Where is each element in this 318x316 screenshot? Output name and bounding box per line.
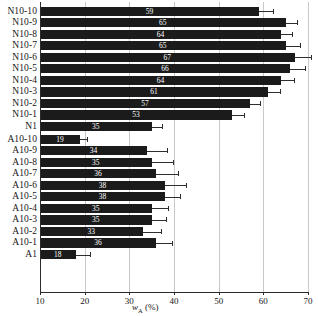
category-label-a10-6: A10-6 [0,181,37,191]
error-bar-cap [244,113,245,118]
error-bar-cap [168,206,169,211]
category-label-a10-8: A10-8 [0,158,37,168]
bar-value-label: 35 [88,205,104,213]
error-bar [76,255,91,256]
gridline-70 [308,2,309,292]
category-label-n10-4: N10-4 [0,76,37,86]
error-bar-cap [180,194,181,199]
error-bar-cap [294,78,295,83]
error-bar [165,197,180,198]
error-bar [165,185,186,186]
error-bar [152,127,163,128]
error-bar [268,92,280,93]
error-bar [281,80,294,81]
error-bar-cap [162,124,163,129]
tick-label-60: 60 [251,297,275,306]
error-bar [290,69,305,70]
bar-value-label: 38 [95,193,111,201]
error-bar-cap [297,20,298,25]
error-bar [152,220,166,221]
bar-value-label: 33 [83,228,99,236]
tick-label-20: 20 [73,297,97,306]
error-bar [156,174,177,175]
category-label-a10-4: A10-4 [0,204,37,214]
category-label-n1: N1 [0,122,37,132]
bar-value-label: 57 [137,100,153,108]
bar-value-label: 38 [95,182,111,190]
bar-value-label: 36 [90,239,106,247]
category-label-n10-7: N10-7 [0,41,37,51]
x-axis-unit: (%) [145,302,159,312]
error-bar [281,34,292,35]
error-bar-cap [260,101,261,106]
error-bar-cap [292,32,293,37]
tick-label-50: 50 [207,297,231,306]
error-bar-cap [178,171,179,176]
category-label-a10-2: A10-2 [0,227,37,237]
tick-70 [308,292,309,295]
category-label-n10-10: N10-10 [0,7,37,17]
bar-value-label: 61 [146,88,162,96]
error-bar-cap [311,55,312,60]
bar-value-label: 35 [88,216,104,224]
x-axis-line [40,292,308,293]
error-bar-cap [273,9,274,14]
bar-value-label: 59 [141,8,157,16]
error-bar-cap [300,43,301,48]
category-label-a10-9: A10-9 [0,146,37,156]
error-bar-cap [186,183,187,188]
error-bar-cap [280,89,281,94]
error-bar-cap [90,252,91,257]
category-label-a10-3: A10-3 [0,215,37,225]
bar-value-label: 64 [153,77,169,85]
error-bar [286,23,298,24]
error-bar-cap [172,241,173,246]
bar-value-label: 18 [50,251,66,259]
error-bar [286,46,300,47]
bar-value-label: 35 [88,159,104,167]
x-axis-title: wA (%) [132,303,158,315]
error-bar [147,151,167,152]
bar-value-label: 65 [155,19,171,27]
error-bar-cap [167,148,168,153]
error-bar [143,232,161,233]
y-axis-line [40,2,41,292]
category-label-n10-6: N10-6 [0,53,37,63]
category-label-n10-3: N10-3 [0,87,37,97]
category-label-n10-2: N10-2 [0,99,37,109]
bar-value-label: 64 [153,31,169,39]
category-label-a1: A1 [0,250,37,260]
error-bar [80,139,87,140]
category-label-n10-1: N10-1 [0,110,37,120]
bar-value-label: 36 [90,170,106,178]
bar-value-label: 65 [155,42,171,50]
category-label-n10-9: N10-9 [0,18,37,28]
bar-value-label: 66 [157,65,173,73]
bar-value-label: 34 [86,147,102,155]
error-bar [295,57,311,58]
error-bar [232,115,244,116]
error-bar-cap [173,160,174,165]
bar-value-label: 53 [128,111,144,119]
error-bar [259,11,273,12]
category-label-n10-5: N10-5 [0,64,37,74]
error-bar-cap [161,229,162,234]
x-axis-subscript: A [138,307,143,314]
error-bar [156,243,172,244]
category-label-n10-8: N10-8 [0,30,37,40]
bar-value-label: 67 [159,54,175,62]
error-bar-cap [87,137,88,142]
error-bar [250,104,260,105]
error-bar [152,162,173,163]
bar-value-label: 19 [52,136,68,144]
bar-value-label: 35 [88,123,104,131]
category-label-a10-7: A10-7 [0,169,37,179]
error-bar-cap [166,217,167,222]
error-bar-cap [305,66,306,71]
category-label-a10-10: A10-10 [0,135,37,145]
tick-label-70: 70 [296,297,318,306]
tick-label-10: 10 [28,297,52,306]
tick-label-40: 40 [162,297,186,306]
error-bar [152,208,168,209]
bar-chart: 5965646567666461575335193435363838353533… [0,0,318,316]
